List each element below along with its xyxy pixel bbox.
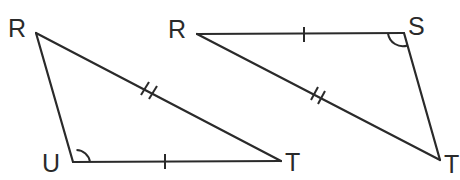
vertex-label-s: S [408,12,425,40]
triangle-rut: R U T [8,14,300,177]
double-tick-rt [311,87,325,104]
side-rt [36,33,281,161]
triangle-rst: R S T [168,12,459,178]
side-rs [197,33,404,34]
vertex-label-u: U [42,149,60,177]
congruent-triangles-diagram: R U T R S T [0,0,460,180]
vertex-label-t: T [444,150,459,178]
angle-arc-u [77,150,91,162]
side-ut [73,161,281,162]
side-st [404,33,440,160]
double-tick-rt [141,82,157,99]
side-ru [36,33,73,162]
vertex-label-r: R [168,15,186,43]
vertex-label-t: T [285,148,300,176]
side-rt [197,34,440,160]
vertex-label-r: R [8,14,26,42]
